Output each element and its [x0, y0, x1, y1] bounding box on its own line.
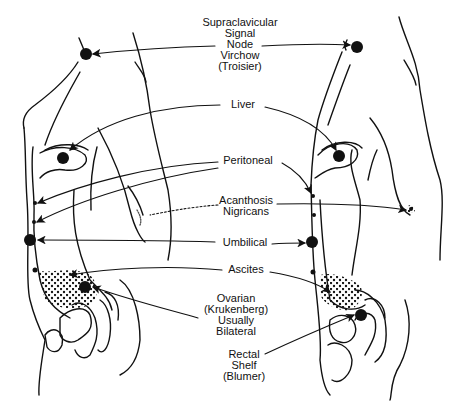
right-figure	[306, 17, 442, 400]
label-line: Nigricans	[219, 206, 273, 217]
label-acanthosis-nigricans: Acanthosis Nigricans	[219, 195, 273, 217]
label-supraclavicular: Supraclavicular Signal Node Virchow (Tro…	[202, 17, 277, 72]
diagram-canvas: Supraclavicular Signal Node Virchow (Tro…	[0, 0, 468, 407]
label-line: (Blumer)	[223, 371, 265, 382]
label-ovarian-krukenberg: Ovarian (Krukenberg) Usually Bilateral	[204, 293, 268, 337]
left-figure	[23, 33, 171, 395]
label-line: Umbilical	[223, 237, 268, 248]
label-liver: Liver	[231, 99, 255, 110]
label-line: Bilateral	[204, 326, 268, 337]
label-umbilical: Umbilical	[223, 237, 268, 248]
label-line: Liver	[231, 99, 255, 110]
label-ascites: Ascites	[228, 264, 263, 275]
label-peritoneal: Peritoneal	[223, 155, 273, 166]
label-line: (Troisier)	[202, 61, 277, 72]
label-rectal-shelf-blumer: Rectal Shelf (Blumer)	[223, 349, 265, 382]
label-line: Ascites	[228, 264, 263, 275]
label-line: Peritoneal	[223, 155, 273, 166]
